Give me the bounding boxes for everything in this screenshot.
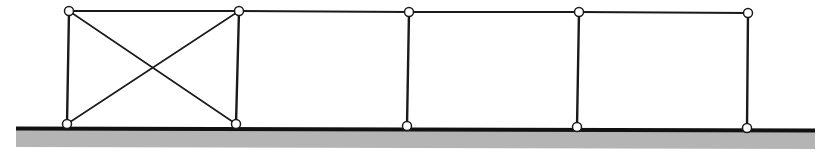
pin-joint-icon <box>232 120 241 129</box>
pin-joint-icon <box>405 8 414 17</box>
pin-joint-icon <box>63 120 72 129</box>
pin-joint-icon <box>743 124 752 133</box>
top-chord-member <box>239 11 409 12</box>
column-member <box>577 12 579 127</box>
pin-joint-icon <box>235 7 244 16</box>
frame-diagram <box>0 0 819 165</box>
pin-joint-icon <box>573 123 582 132</box>
pin-joint-icon <box>575 8 584 17</box>
top-chord-member <box>579 12 748 13</box>
pin-joint-icon <box>403 122 412 131</box>
ground <box>16 128 815 149</box>
ground-line <box>16 129 815 131</box>
frame-members <box>67 11 748 128</box>
column-member <box>67 11 69 124</box>
column-member <box>747 13 748 128</box>
column-member <box>407 12 409 126</box>
pin-joint-icon <box>744 9 753 18</box>
column-member <box>236 11 239 124</box>
pin-joint-icon <box>65 7 74 16</box>
